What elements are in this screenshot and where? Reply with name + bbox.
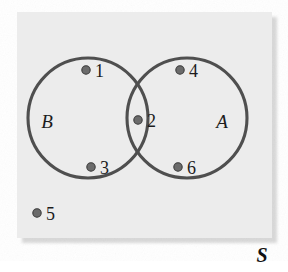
venn-diagram-svg: B A 123456 S [0,0,288,272]
element-dot-icon [174,163,182,171]
element-number-label: 1 [95,61,104,81]
set-a-label: A [214,111,228,132]
venn-diagram-canvas: B A 123456 S [0,0,288,272]
element-dot-icon [82,66,90,74]
element-number-label: 6 [187,158,196,178]
element-number-label: 4 [189,61,198,81]
element-number-label: 3 [100,158,109,178]
universe-set-rectangle [17,12,272,238]
element-number-label: 2 [147,111,156,131]
element-dot-icon [33,209,41,217]
element-dot-icon [176,66,184,74]
element-number-label: 5 [46,204,55,224]
universal-set-label: S [256,244,267,266]
set-b-label: B [41,111,53,132]
element-dot-icon [87,163,95,171]
element-dot-icon [134,116,142,124]
